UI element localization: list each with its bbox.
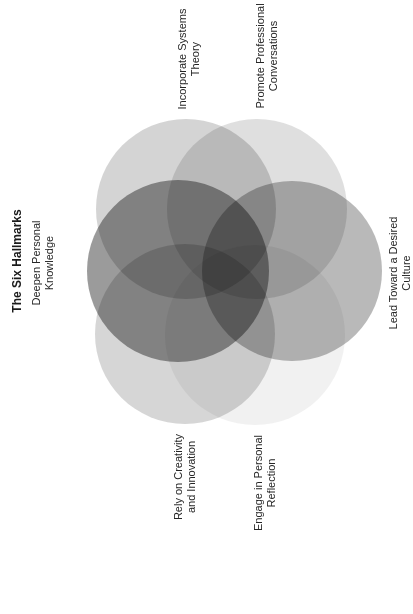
label-line2: Knowledge (43, 220, 56, 305)
label-lead-desired-culture: Lead Toward a Desired Culture (387, 217, 413, 330)
label-engage-personal-reflection: Engage in Personal Reflection (252, 435, 278, 531)
label-deepen-personal-knowledge: Deepen Personal Knowledge (30, 220, 56, 305)
label-line1: Promote Professional (254, 3, 267, 108)
diagram-title: The Six Hallmarks (11, 209, 24, 312)
label-promote-professional-conversations: Promote Professional Conversations (254, 3, 280, 108)
label-line2: and Innovation (185, 434, 198, 520)
label-line2: Theory (189, 9, 202, 110)
label-line1: Incorporate Systems (176, 9, 189, 110)
label-line1: Deepen Personal (30, 220, 43, 305)
label-line1: Lead Toward a Desired (387, 217, 400, 330)
label-incorporate-systems-theory: Incorporate Systems Theory (176, 9, 202, 110)
label-rely-on-creativity: Rely on Creativity and Innovation (172, 434, 198, 520)
label-line2: Reflection (265, 435, 278, 531)
label-line1: Engage in Personal (252, 435, 265, 531)
circle-deepen-personal-knowledge (87, 180, 269, 362)
venn-diagram (0, 0, 413, 614)
label-line2: Culture (400, 217, 413, 330)
label-line2: Conversations (267, 3, 280, 108)
title-text: The Six Hallmarks (11, 209, 24, 312)
label-line1: Rely on Creativity (172, 434, 185, 520)
